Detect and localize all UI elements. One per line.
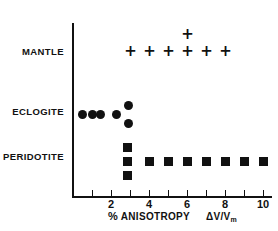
x-tick-1 [92,190,93,196]
peridotite-square-marker [202,157,211,166]
row-label-peridotite: PERIDOTITE [0,152,64,162]
mantle-plus-marker: + [181,44,194,59]
x-tick-10 [263,190,264,196]
eclogite-circle-marker [96,110,105,119]
peridotite-square-marker [145,157,154,166]
x-tick-8 [225,190,226,196]
x-tick-2 [111,190,112,196]
mantle-plus-marker: + [181,27,194,42]
x-tick-label-4: 4 [139,199,159,210]
peridotite-square-marker [221,157,230,166]
x-tick-6 [187,190,188,196]
peridotite-square-marker [123,143,132,152]
peridotite-square-marker [123,171,132,180]
row-label-eclogite: ECLOGITE [0,107,64,117]
x-tick-label-6: 6 [177,199,197,210]
mantle-plus-marker: + [162,44,175,59]
x-tick-label-8: 8 [215,199,235,210]
mantle-plus-marker: + [143,44,156,59]
eclogite-circle-marker [78,110,87,119]
peridotite-square-marker [183,157,192,166]
eclogite-circle-marker [112,110,121,119]
x-axis-line [72,196,272,198]
x-tick-7 [206,190,207,196]
mantle-plus-marker: + [124,44,137,59]
peridotite-square-marker [123,157,132,166]
peridotite-square-marker [240,157,249,166]
mantle-plus-marker: + [219,44,232,59]
x-tick-label-10: 10 [253,199,273,210]
x-axis-title: % ANISOTROPY ΔV/Vm [108,211,237,222]
mantle-plus-marker: + [200,44,213,59]
x-tick-9 [244,190,245,196]
y-axis-line [72,23,74,198]
x-tick-label-2: 2 [101,199,121,210]
eclogite-circle-marker [124,119,133,128]
peridotite-square-marker [164,157,173,166]
x-tick-3 [130,190,131,196]
x-axis-title-delta-expression: ΔV/Vm [206,211,237,222]
x-axis-title-main: ANISOTROPY [121,211,190,222]
x-axis-title-delta-subscript: m [230,216,237,223]
x-axis-title-delta: ΔV/V [206,211,231,222]
x-axis-title-percent: % [108,210,118,222]
anisotropy-strip-plot: MANTLE ECLOGITE PERIDOTITE 2 4 6 8 10 + … [0,0,278,231]
x-tick-4 [149,190,150,196]
x-tick-5 [168,190,169,196]
row-label-mantle: MANTLE [0,47,64,57]
peridotite-square-marker [259,157,268,166]
eclogite-circle-marker [124,101,133,110]
